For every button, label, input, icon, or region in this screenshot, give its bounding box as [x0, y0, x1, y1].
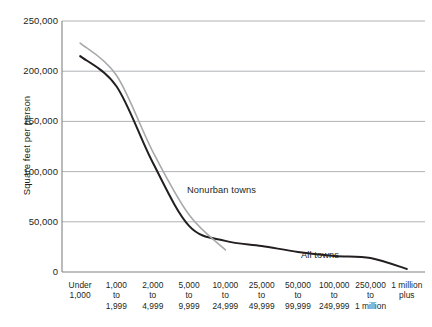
series-label-all-towns: All towns [301, 250, 339, 260]
series-line-all-towns [80, 56, 407, 269]
plot-area [0, 0, 432, 327]
series-label-nonurban-towns: Nonurban towns [187, 185, 256, 195]
x-axis-tick-label: 1 millionplus [386, 280, 428, 301]
series-line-nonurban-towns [80, 43, 225, 250]
x-axis-tick-label-line: 1 million [386, 280, 428, 290]
data-series [80, 43, 407, 269]
chart-container: Square feet per person 050,000100,000150… [0, 0, 432, 327]
x-axis-tick-label-line: plus [386, 290, 428, 300]
axis-lines [62, 21, 425, 272]
x-axis-tick-label-line: 1 million [349, 301, 391, 311]
